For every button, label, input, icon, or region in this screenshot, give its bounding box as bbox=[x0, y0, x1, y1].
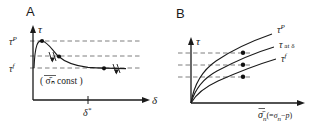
svg-text:σ̄n(=σn−p): σ̄n(=σn−p) bbox=[258, 109, 293, 123]
curve-label-tau-at-delta-mid: at δ bbox=[283, 42, 296, 50]
x-axis-label-b: σ̄n(=σn−p) bbox=[258, 109, 293, 124]
x-tick-label-delta-star: δ* bbox=[83, 106, 92, 118]
curve-label-tau-residual-sup: f bbox=[285, 52, 288, 60]
curve-label-tau-at-delta: τ at δ bbox=[279, 39, 295, 50]
curve-tau-peak-b bbox=[191, 34, 272, 103]
slip-arrow-marker-2 bbox=[113, 64, 120, 75]
xlab-paren-close: ) bbox=[290, 111, 293, 120]
x-axis-arrow-a bbox=[142, 97, 150, 103]
data-point-residual bbox=[102, 66, 106, 70]
figure-canvas: A τ δ τP τf δ* ( bbox=[0, 0, 328, 128]
panel-b: B τ τP τ at δ τf σ̄n(=σn−p) bbox=[176, 6, 305, 123]
svg-text:τP: τP bbox=[9, 35, 18, 47]
slip-arrow-marker-1 bbox=[49, 52, 56, 63]
svg-text:τf: τf bbox=[9, 62, 16, 74]
annotation-sigma-const: ( σ̄ₙ const ) bbox=[40, 76, 83, 87]
curve-tau-decay bbox=[34, 41, 126, 69]
data-point-b-mid bbox=[241, 63, 245, 67]
tick-delta-sup: * bbox=[88, 106, 92, 114]
y-tick-label-peak: τP bbox=[9, 35, 18, 47]
y-axis-label-b: τ bbox=[196, 35, 201, 47]
panel-letter-a: A bbox=[26, 4, 35, 19]
curve-label-tau-residual: τf bbox=[281, 52, 288, 64]
y-axis-arrow-b bbox=[188, 37, 194, 45]
svg-text:δ*: δ* bbox=[83, 106, 92, 118]
y-axis-arrow-a bbox=[30, 25, 36, 33]
data-point-b-peak bbox=[241, 51, 245, 55]
y-axis-label-a: τ bbox=[38, 23, 43, 35]
panel-letter-b: B bbox=[176, 6, 185, 21]
tick-residual-sup: f bbox=[13, 62, 16, 70]
curve-label-tau-peak: τP bbox=[277, 23, 286, 35]
y-tick-label-residual: τf bbox=[9, 62, 16, 74]
figure-svg: A τ δ τP τf δ* ( bbox=[0, 0, 328, 128]
data-point-mid bbox=[57, 54, 61, 58]
data-point-b-residual bbox=[241, 75, 245, 79]
curve-label-tau-peak-sup: P bbox=[280, 23, 286, 31]
data-point-peak bbox=[40, 39, 44, 43]
x-axis-label-a: δ bbox=[152, 94, 158, 106]
x-axis-arrow-b bbox=[297, 100, 305, 106]
panel-a: A τ δ τP τf δ* ( bbox=[9, 4, 158, 118]
tick-peak-sup: P bbox=[12, 35, 18, 43]
